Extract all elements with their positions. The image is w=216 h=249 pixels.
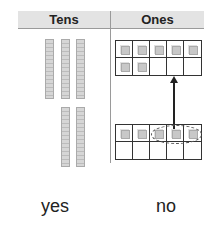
ones-cube [172, 46, 181, 55]
ones-cube [155, 46, 164, 55]
tens-rod [61, 107, 70, 167]
tens-rod [76, 107, 85, 167]
tens-rod [45, 39, 54, 99]
header-ones: Ones [111, 11, 204, 29]
dashed-circle-group [151, 125, 202, 144]
answer-no[interactable]: no [156, 196, 176, 217]
ones-cube [138, 130, 147, 139]
ones-cube [189, 46, 198, 55]
ones-cube [121, 130, 130, 139]
ones-cube [138, 63, 147, 72]
answer-yes[interactable]: yes [41, 196, 69, 217]
ones-cube [138, 46, 147, 55]
tens-rod [76, 39, 85, 99]
column-divider [110, 11, 111, 163]
ones-cube [121, 46, 130, 55]
ones-cube [121, 63, 130, 72]
tens-rod [61, 39, 70, 99]
ones-ten-frame-top [115, 40, 202, 76]
header-tens: Tens [18, 11, 110, 29]
